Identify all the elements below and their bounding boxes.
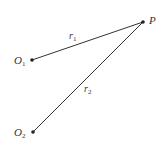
point-p — [141, 20, 145, 24]
point-o1 — [30, 58, 34, 62]
label-o2: O2 — [14, 126, 26, 140]
label-r2: r2 — [84, 83, 92, 96]
label-o1: O1 — [14, 54, 26, 68]
label-p: P — [148, 14, 156, 26]
label-r1: r1 — [69, 30, 77, 43]
segment-r1 — [32, 22, 143, 60]
distance-diagram: O1 O2 P r1 r2 — [0, 0, 166, 144]
segment-r2 — [33, 22, 143, 132]
point-o2 — [31, 130, 35, 134]
